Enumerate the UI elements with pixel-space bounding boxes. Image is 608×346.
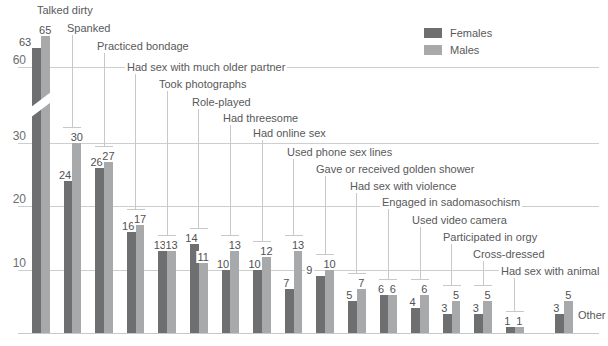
bar-females <box>555 314 564 333</box>
value-label-females: 7 <box>282 277 290 289</box>
value-label-males: 12 <box>259 245 273 257</box>
category-label: Cross-dressed <box>471 248 547 260</box>
value-label-males: 5 <box>564 289 572 301</box>
bar-males <box>294 251 303 333</box>
bar-males <box>452 301 461 333</box>
bar-males <box>41 36 50 334</box>
leader-tick <box>221 235 239 236</box>
gridline <box>18 143 599 144</box>
y-axis-label: 60 <box>2 54 26 67</box>
category-label: Had sex with much older partner <box>125 61 287 73</box>
legend-swatch-males <box>424 45 442 55</box>
bar-males <box>420 295 429 333</box>
bar-females <box>411 308 420 333</box>
leader-tick <box>63 127 81 128</box>
value-label-females: 63 <box>18 36 32 48</box>
value-label-males: 27 <box>101 150 115 162</box>
leader-line <box>167 91 168 235</box>
leader-tick <box>95 146 113 147</box>
leader-tick <box>474 285 492 286</box>
bar-males <box>230 251 239 333</box>
x-axis-baseline <box>18 333 599 334</box>
bar-males <box>564 301 573 333</box>
leader-tick <box>348 273 366 274</box>
bar-males <box>483 301 492 333</box>
leader-line <box>356 193 357 273</box>
value-label-males: 65 <box>38 24 52 36</box>
bar-males <box>104 162 113 333</box>
value-label-males: 10 <box>322 258 336 270</box>
y-axis-label: 30 <box>2 130 26 143</box>
bar-females <box>380 295 389 333</box>
leader-tick <box>127 209 145 210</box>
bar-females <box>443 314 452 333</box>
category-label: Gave or received golden shower <box>314 163 476 175</box>
bar-males <box>357 289 366 333</box>
leader-line <box>325 176 326 254</box>
value-label-females: 24 <box>58 169 72 181</box>
leader-line <box>420 227 421 279</box>
bar-males <box>136 225 145 333</box>
bar-males <box>262 257 271 333</box>
leader-tick <box>253 241 271 242</box>
legend-swatch-females <box>424 28 442 38</box>
value-label-males: 6 <box>420 283 428 295</box>
leader-line <box>293 159 294 235</box>
category-label: Had threesome <box>221 112 300 124</box>
value-label-males: 1 <box>515 315 523 327</box>
bar-males <box>72 143 81 333</box>
leader-tick <box>285 235 303 236</box>
y-axis-label: 20 <box>2 193 26 206</box>
leader-tick <box>379 279 397 280</box>
legend-row-males: Males <box>424 41 492 58</box>
leader-tick <box>506 311 524 312</box>
value-label-males: 13 <box>164 239 178 251</box>
category-label: Took photographs <box>157 78 248 90</box>
category-label: Spanked <box>65 22 112 34</box>
bar-males <box>167 251 176 333</box>
value-label-males: 30 <box>70 131 84 143</box>
bar-females <box>316 276 325 333</box>
category-label: Had sex with violence <box>348 180 458 192</box>
value-label-males: 5 <box>452 289 460 301</box>
legend-row-females: Females <box>424 24 492 41</box>
leader-line <box>230 125 231 235</box>
y-axis-label: 10 <box>2 257 26 270</box>
category-label: Used phone sex lines <box>285 146 394 158</box>
value-label-females: 3 <box>472 302 480 314</box>
value-label-females: 1 <box>503 315 511 327</box>
leader-line <box>72 35 73 127</box>
leader-line <box>388 209 389 279</box>
bar-females <box>95 168 104 333</box>
category-label: Used video camera <box>410 214 509 226</box>
legend-label-males: Males <box>450 44 479 56</box>
bar-females <box>32 48 41 333</box>
leader-line <box>135 74 136 209</box>
bar-females <box>127 232 136 333</box>
category-label: Participated in orgy <box>441 231 539 243</box>
leader-line <box>262 140 263 241</box>
category-label: Practiced bondage <box>95 40 191 52</box>
value-label-males: 7 <box>357 277 365 289</box>
value-label-males: 13 <box>228 239 242 251</box>
value-label-males: 11 <box>196 251 209 263</box>
value-label-females: 5 <box>345 289 353 301</box>
leader-tick <box>443 285 461 286</box>
value-label-females: 3 <box>440 302 448 314</box>
category-label: Other <box>576 309 608 321</box>
bar-males <box>325 270 334 333</box>
category-label: Had sex with animal <box>499 265 601 277</box>
bar-males <box>199 263 208 333</box>
value-label-females: 9 <box>305 264 313 276</box>
value-label-females: 4 <box>409 296 417 308</box>
value-label-males: 5 <box>484 289 492 301</box>
leader-line <box>514 278 515 311</box>
leader-tick <box>411 279 429 280</box>
value-label-females: 14 <box>184 232 198 244</box>
category-label: Had online sex <box>251 127 328 139</box>
value-label-males: 17 <box>133 213 147 225</box>
bar-females <box>158 251 167 333</box>
legend: Females Males <box>424 24 492 58</box>
bar-males <box>388 295 397 333</box>
leader-line <box>451 244 452 285</box>
